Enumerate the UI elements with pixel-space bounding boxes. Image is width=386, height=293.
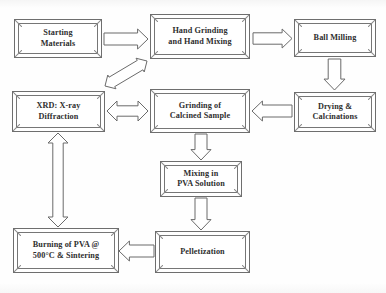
flow-node-burning-pva[interactable]: Burning of PVA @ 500°C & Sintering xyxy=(13,228,119,273)
flow-node-pelletization[interactable]: Pelletization xyxy=(155,231,250,273)
flow-node-grinding-calcined[interactable]: Grinding of Calcined Sample xyxy=(150,89,250,133)
flow-node-label: Pelletization xyxy=(160,232,245,272)
flow-node-label: XRD: X-ray Diffraction xyxy=(17,92,100,131)
arrow-grinding-to-xrd xyxy=(107,101,148,121)
flow-node-hand-grinding[interactable]: Hand Grinding and Hand Mixing xyxy=(150,14,250,59)
arrow-drying-to-grinding xyxy=(252,101,292,121)
flow-node-label: Hand Grinding and Hand Mixing xyxy=(155,15,245,58)
arrow-mixing-to-pelletization xyxy=(191,198,211,230)
arrow-grinding-to-mixing xyxy=(191,134,211,160)
arrow-xrd-to-handgrinding xyxy=(100,56,152,91)
arrow-pelletization-to-burning xyxy=(119,241,154,261)
arrow-starting-to-handgrinding xyxy=(104,29,148,49)
arrow-handgrinding-to-ballmilling xyxy=(253,29,292,48)
flow-node-mixing-pva[interactable]: Mixing in PVA Solution xyxy=(160,161,242,197)
flowchart-canvas: Starting MaterialsHand Grinding and Hand… xyxy=(0,0,386,293)
flow-node-drying-calcinations[interactable]: Drying & Calcinations xyxy=(294,92,376,132)
flow-node-starting-materials[interactable]: Starting Materials xyxy=(14,19,102,58)
flow-node-label: Ball Milling xyxy=(299,20,371,56)
arrow-ballmilling-to-drying xyxy=(324,59,345,90)
flow-node-ball-milling[interactable]: Ball Milling xyxy=(294,19,376,57)
flow-node-label: Starting Materials xyxy=(19,20,97,57)
flow-node-label: Drying & Calcinations xyxy=(299,93,371,131)
flow-node-label: Burning of PVA @ 500°C & Sintering xyxy=(18,229,114,272)
flow-node-label: Grinding of Calcined Sample xyxy=(155,90,245,132)
arrow-burning-to-xrd xyxy=(48,133,68,227)
flow-node-xrd-diffraction[interactable]: XRD: X-ray Diffraction xyxy=(12,91,105,132)
flow-node-label: Mixing in PVA Solution xyxy=(165,162,237,196)
